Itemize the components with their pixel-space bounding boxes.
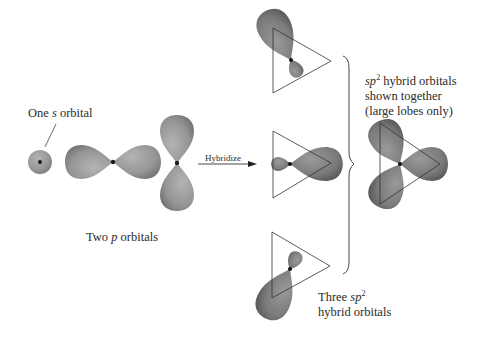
p-orbital-vertical (160, 115, 194, 211)
orbital-diagram (0, 0, 481, 338)
s-orbital-label: One s orbital (28, 106, 93, 121)
sp2-orbitals-combined (363, 114, 448, 215)
hybridize-label: Hybridize (205, 151, 241, 166)
three-sp2-label: Three sp2 hybrid orbitals (318, 290, 391, 320)
p-orbitals-label: Two p orbitals (86, 230, 158, 245)
curly-brace (343, 56, 354, 274)
p-orbital-horizontal (65, 145, 161, 179)
sp2-orbital-top (251, 3, 331, 93)
s-leader-line (45, 124, 56, 147)
together-label: sp2 hybrid orbitals shown together (larg… (365, 74, 457, 119)
sp2-orbital-middle (271, 131, 343, 198)
s-orbital (28, 150, 52, 174)
